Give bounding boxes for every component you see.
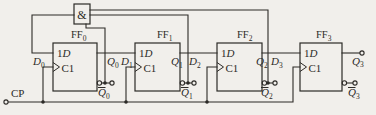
- wire-cp-to-ff2-clock: [207, 67, 217, 102]
- d2-label: D2: [188, 55, 201, 70]
- ff3-data-input-label: 1D: [304, 47, 318, 59]
- cp-label: CP: [11, 87, 24, 99]
- q3-terminal: [360, 51, 364, 55]
- ff1-inversion-bubble: [180, 81, 184, 85]
- junction-dot: [205, 100, 209, 104]
- ff2-name: FF2: [237, 29, 253, 43]
- ring-counter-schematic: & FF0 1D C1 FF1 1D C1 FF2 1D C1 FF3 1D C…: [0, 0, 376, 115]
- qbar1-terminal: [192, 81, 196, 85]
- q1-label: Q1: [171, 55, 183, 70]
- ff3-name: FF3: [316, 29, 332, 43]
- qbar1-label: Q1: [181, 86, 193, 101]
- schematic-page: & FF0 1D C1 FF1 1D C1 FF2 1D C1 FF3 1D C…: [0, 0, 376, 115]
- junction-dots: [41, 81, 270, 104]
- qbar3-terminal: [353, 81, 357, 85]
- qbar2-label: Q2: [261, 86, 273, 101]
- junction-dot: [124, 100, 128, 104]
- junction-dot: [103, 81, 107, 85]
- qbar3-label: Q3: [348, 86, 360, 101]
- q3-label: Q3: [352, 55, 364, 70]
- ff2-clock-edge-triangle-icon: [217, 63, 224, 72]
- ff0-inversion-bubble: [97, 81, 101, 85]
- flipflop-ff0: FF0 1D C1: [53, 29, 97, 91]
- flipflop-ff3: FF3 1D C1: [300, 29, 342, 91]
- ff0-name: FF0: [71, 29, 87, 43]
- qbar0-label: Q0: [98, 86, 110, 101]
- junction-dot: [41, 100, 45, 104]
- qbar0-terminal: [110, 81, 114, 85]
- ff3-clock-label: C1: [309, 62, 322, 74]
- ff2-inversion-bubble: [262, 81, 266, 85]
- ff0-data-input-label: 1D: [57, 47, 71, 59]
- wire-cp-to-ff0-clock: [43, 67, 53, 102]
- ff0-clock-edge-triangle-icon: [53, 63, 60, 72]
- ff0-clock-label: C1: [62, 62, 75, 74]
- ff2-data-input-label: 1D: [221, 47, 235, 59]
- ff2-clock-label: C1: [226, 62, 239, 74]
- d0-label: D0: [32, 55, 45, 70]
- ff1-name: FF1: [157, 29, 173, 43]
- wire-qbar2-feedback-to-and: [90, 10, 268, 83]
- qbar2-terminal: [273, 81, 277, 85]
- cp-terminal: [4, 100, 8, 104]
- junction-dot: [186, 81, 190, 85]
- d3-label: D3: [270, 55, 283, 70]
- q0-label: Q0: [107, 55, 119, 70]
- ff1-clock-edge-triangle-icon: [135, 63, 142, 72]
- ff1-clock-label: C1: [144, 62, 157, 74]
- and-gate-label: &: [77, 8, 87, 22]
- wire-cp-to-ff1-clock: [126, 67, 135, 102]
- ff1-data-input-label: 1D: [139, 47, 153, 59]
- and-gate: &: [74, 4, 90, 24]
- ff3-inversion-bubble: [342, 81, 346, 85]
- ff3-clock-edge-triangle-icon: [300, 63, 307, 72]
